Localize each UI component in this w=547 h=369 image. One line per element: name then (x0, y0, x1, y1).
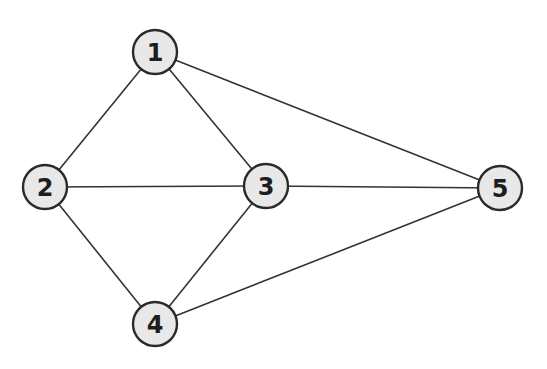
node-5: 5 (478, 166, 522, 210)
edge-1-3 (155, 52, 266, 186)
node-label: 4 (147, 311, 164, 339)
node-label: 5 (492, 175, 509, 203)
node-label: 3 (258, 173, 275, 201)
edge-1-5 (155, 52, 500, 188)
edge-4-5 (155, 188, 500, 324)
node-3: 3 (244, 164, 288, 208)
edge-1-2 (45, 52, 155, 187)
node-2: 2 (23, 165, 67, 209)
node-label: 2 (37, 174, 54, 202)
edge-3-5 (266, 186, 500, 188)
edge-2-3 (45, 186, 266, 187)
edge-2-4 (45, 187, 155, 324)
graph-diagram: 12345 (0, 0, 547, 369)
node-label: 1 (147, 39, 164, 67)
node-1: 1 (133, 30, 177, 74)
edge-3-4 (155, 186, 266, 324)
node-4: 4 (133, 302, 177, 346)
